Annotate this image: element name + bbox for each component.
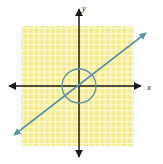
x-axis-label: x [146, 82, 151, 92]
graph-canvas: y x [0, 0, 163, 164]
y-axis-label: y [81, 3, 86, 13]
coordinate-plane-graph: y x [0, 0, 163, 164]
